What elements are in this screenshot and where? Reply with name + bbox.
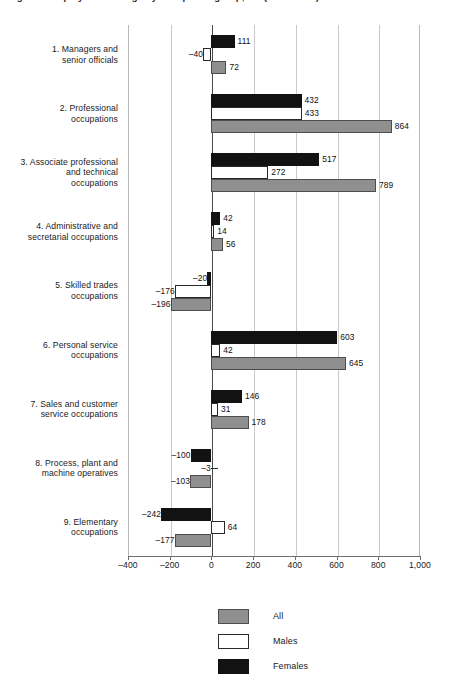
bar-sales-customer-service-all <box>211 416 248 429</box>
category-label-line: occupations <box>0 114 118 125</box>
bar-managers-females <box>211 35 234 48</box>
category-label-line: service occupations <box>0 409 118 420</box>
bar-professional-females <box>211 94 301 107</box>
bar-value-professional-males: 433 <box>302 107 319 120</box>
legend-label-all: All <box>273 610 283 623</box>
bar-value-skilled-trades-females: –20 <box>0 272 210 285</box>
bar-professional-males <box>211 107 301 120</box>
bar-personal-service-males <box>211 344 220 357</box>
bar-elementary-all <box>175 534 212 547</box>
bar-value-personal-service-all: 645 <box>346 357 363 370</box>
bar-value-process-plant-machine-all: –103 <box>0 475 193 488</box>
bar-value-personal-service-males: 42 <box>220 344 233 357</box>
bar-skilled-trades-males <box>175 285 212 298</box>
bar-administrative-females <box>211 212 220 225</box>
category-label-line: occupations <box>0 178 118 189</box>
gridline <box>338 25 339 557</box>
category-label-line: 2. Professional <box>0 103 118 114</box>
bar-process-plant-machine-females <box>191 449 212 462</box>
category-label-line: 6. Personal service <box>0 340 118 351</box>
bar-value-process-plant-machine-females: –100 <box>0 449 194 462</box>
bar-value-associate-professional-females: 517 <box>319 153 336 166</box>
bar-value-administrative-females: 42 <box>220 212 233 225</box>
bar-value-associate-professional-males: 272 <box>268 166 285 179</box>
category-label-line: 7. Sales and customer <box>0 399 118 410</box>
bar-value-process-plant-machine-males: –3 <box>0 462 214 475</box>
bar-associate-professional-females <box>211 153 319 166</box>
chart-title-clipped: Figure 1 Employment change by occupation… <box>0 0 450 12</box>
bar-skilled-trades-all <box>171 298 212 311</box>
x-tick-label: 1,000 <box>390 560 450 570</box>
bar-value-elementary-all: –177 <box>0 534 178 547</box>
category-label-line: 4. Administrative and <box>0 221 118 232</box>
category-label-associate-professional: 3. Associate professionaland technicaloc… <box>0 157 118 189</box>
category-label-administrative: 4. Administrative andsecretarial occupat… <box>0 221 118 242</box>
bar-value-sales-customer-service-females: 146 <box>242 390 259 403</box>
bar-personal-service-all <box>211 357 346 370</box>
bar-sales-customer-service-females <box>211 390 241 403</box>
legend-label-males: Males <box>273 635 298 648</box>
bar-value-elementary-males: 64 <box>225 521 238 534</box>
bar-value-managers-males: –40 <box>0 48 206 61</box>
bar-value-elementary-females: –242 <box>0 508 164 521</box>
category-label-line: 3. Associate professional <box>0 157 118 168</box>
bar-personal-service-females <box>211 331 337 344</box>
bar-value-sales-customer-service-males: 31 <box>218 403 231 416</box>
bar-value-administrative-males: 14 <box>214 225 227 238</box>
category-label-line: secretarial occupations <box>0 232 118 243</box>
bar-value-skilled-trades-males: –176 <box>0 285 178 298</box>
legend-swatch-all <box>218 609 249 624</box>
bar-value-associate-professional-all: 789 <box>376 179 393 192</box>
bar-administrative-all <box>211 238 223 251</box>
bar-process-plant-machine-all <box>190 475 211 488</box>
category-label-sales-customer-service: 7. Sales and customerservice occupations <box>0 399 118 420</box>
legend-label-females: Females <box>273 660 308 673</box>
category-label-line: and technical <box>0 167 118 178</box>
legend-swatch-females <box>218 659 249 674</box>
category-label-personal-service: 6. Personal serviceoccupations <box>0 340 118 361</box>
bar-value-professional-females: 432 <box>302 94 319 107</box>
bar-elementary-females <box>161 508 211 521</box>
bar-managers-all <box>211 61 226 74</box>
gridline <box>379 25 380 557</box>
x-axis-line <box>128 556 420 557</box>
legend-swatch-males <box>218 634 249 649</box>
occupation-change-bar-chart: Figure 1 Employment change by occupation… <box>0 0 450 681</box>
category-label-line: occupations <box>0 350 118 361</box>
chart-title-text: Figure 1 Employment change by occupation… <box>8 0 319 2</box>
bar-value-personal-service-females: 603 <box>337 331 354 344</box>
bar-associate-professional-all <box>211 179 376 192</box>
bar-value-skilled-trades-all: –196 <box>0 298 174 311</box>
bar-value-professional-all: 864 <box>392 120 409 133</box>
bar-value-managers-females: 111 <box>235 35 251 48</box>
bar-value-managers-all: 72 <box>226 61 239 74</box>
bar-value-sales-customer-service-all: 178 <box>249 416 266 429</box>
bar-associate-professional-males <box>211 166 268 179</box>
bar-professional-all <box>211 120 391 133</box>
category-label-professional: 2. Professionaloccupations <box>0 103 118 124</box>
bar-value-administrative-all: 56 <box>223 238 236 251</box>
bar-elementary-males <box>211 521 224 534</box>
